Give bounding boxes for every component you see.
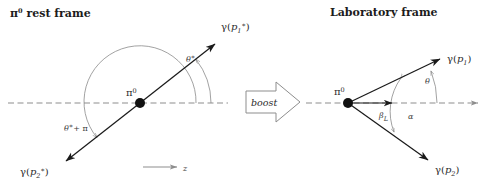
rest-frame-title: π0 rest frame (10, 7, 91, 20)
lab-frame-photon2-close: ) (455, 164, 459, 175)
lab-frame-pion-vertex-dot (343, 98, 353, 108)
lab-frame-alpha-arc (390, 78, 401, 132)
rest-frame-theta-star-label: θ∗ (186, 53, 195, 64)
lab-frame-theta-arc (431, 71, 437, 103)
rest-frame-theta-plus-pi-rest: + π (73, 124, 88, 133)
rest-frame-photon2-gamma: γ( (20, 166, 30, 177)
rest-frame-theta-star-arc (196, 59, 211, 103)
lab-frame-title: Laboratory frame (330, 6, 438, 19)
rest-frame-photon1-label: γ(p1∗) (221, 21, 250, 35)
rest-frame-photon2-close: ) (45, 166, 49, 177)
rest-frame-photon1-close: ) (246, 21, 250, 32)
rest-frame-z-legend-label: z (182, 164, 188, 173)
lab-frame-beta-sub: L (383, 115, 388, 123)
boost-arrow-group: boost (246, 82, 300, 122)
rest-frame-photon1-ray (140, 44, 215, 103)
lab-frame-photon1-close: ) (467, 53, 471, 64)
lab-frame-photon1-label: γ(p1) (447, 53, 471, 67)
lab-frame-alpha-label: α (408, 112, 414, 121)
rest-frame-pion-label: π0 (126, 87, 137, 99)
rest-frame-photon1-gamma: γ( (221, 21, 231, 32)
rest-frame-theta-star-sup: ∗ (191, 53, 195, 61)
rest-frame-title-pion: π (10, 7, 18, 20)
pion-decay-kinematics-figure: π0 rest frame π0 γ(p1∗) γ(p2∗) θ∗ (0, 0, 495, 187)
rest-frame-pion-vertex-dot (135, 98, 145, 108)
rest-frame-title-rest: rest frame (26, 7, 90, 20)
lab-frame-photon2-label: γ(p2) (435, 164, 459, 178)
rest-frame-theta-star-plus-pi-label: θ∗+ π (64, 122, 88, 133)
lab-frame-photon2-gamma: γ( (435, 164, 445, 175)
rest-frame-photon2-label: γ(p2∗) (20, 166, 49, 180)
lab-frame-pion-label: π0 (334, 86, 345, 98)
lab-frame-theta-label: θ (425, 77, 430, 86)
lab-frame-photon2-ray (348, 103, 428, 160)
lab-frame-photon1-gamma: γ( (447, 53, 457, 64)
boost-label: boost (251, 97, 277, 108)
lab-frame-pion-sup: 0 (341, 86, 345, 94)
rest-frame-panel: π0 rest frame π0 γ(p1∗) γ(p2∗) θ∗ (8, 7, 250, 180)
lab-frame-beta-label: βL (378, 111, 388, 123)
lab-frame-panel: Laboratory frame π0 γ(p1) γ(p2) θ α (306, 6, 478, 178)
rest-frame-theta-star-plus-pi-arc (84, 46, 196, 138)
rest-frame-pion-sup: 0 (133, 87, 137, 95)
